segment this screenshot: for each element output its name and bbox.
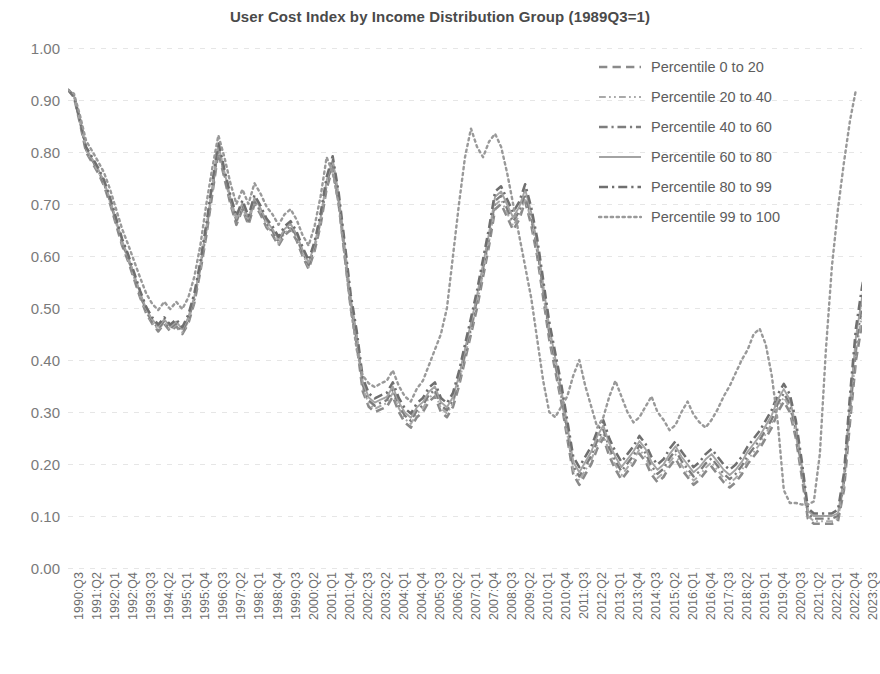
x-axis-tick-label: 1995:Q4 xyxy=(198,572,212,620)
x-axis-tick-label: 2008:Q3 xyxy=(505,572,519,620)
legend-item-label: Percentile 80 to 99 xyxy=(651,179,772,195)
x-axis-tick-label: 2015:Q2 xyxy=(668,572,682,620)
legend-line-sample-icon xyxy=(598,90,642,104)
x-axis-tick-label: 1991:Q2 xyxy=(90,572,104,620)
legend-line-sample-icon xyxy=(598,120,642,134)
legend-line-sample-icon xyxy=(598,60,642,74)
x-axis-tick-label: 2017:Q3 xyxy=(722,572,736,620)
y-axis-tick-label: 0.90 xyxy=(14,92,60,109)
legend-item-label: Percentile 99 to 100 xyxy=(651,209,780,225)
y-axis-tick-label: 0.80 xyxy=(14,144,60,161)
x-axis-tick-label: 2018:Q2 xyxy=(740,572,754,620)
x-axis-tick-label: 1992:Q4 xyxy=(126,572,140,620)
x-axis-tick-label: 2014:Q3 xyxy=(649,572,663,620)
legend-item-label: Percentile 0 to 20 xyxy=(651,59,764,75)
x-axis-tick-label: 1993:Q3 xyxy=(144,572,158,620)
y-axis-tick-label: 0.10 xyxy=(14,508,60,525)
x-axis-tick-label: 2020:Q3 xyxy=(794,572,808,620)
y-axis-tick-label: 0.20 xyxy=(14,456,60,473)
y-axis-tick-label: 0.70 xyxy=(14,196,60,213)
x-axis-tick-label: 2022:Q4 xyxy=(848,572,862,620)
x-axis-tick-label: 2016:Q1 xyxy=(686,572,700,620)
x-axis-tick-label: 2007:Q1 xyxy=(469,572,483,620)
x-axis-tick-label: 1998:Q1 xyxy=(252,572,266,620)
x-axis-tick-label: 2016:Q4 xyxy=(704,572,718,620)
x-axis-tick-label: 2013:Q1 xyxy=(613,572,627,620)
x-axis-tick-label: 2022:Q1 xyxy=(830,572,844,620)
x-axis-tick-label: 2013:Q4 xyxy=(631,572,645,620)
legend-item[interactable]: Percentile 80 to 99 xyxy=(598,172,870,202)
x-axis-tick-label: 2023:Q3 xyxy=(866,572,880,620)
legend-line-sample-icon xyxy=(598,210,642,224)
x-axis-tick-label: 1995:Q1 xyxy=(180,572,194,620)
legend-item[interactable]: Percentile 20 to 40 xyxy=(598,82,870,112)
legend-line-sample-icon xyxy=(598,180,642,194)
legend-item[interactable]: Percentile 99 to 100 xyxy=(598,202,870,232)
legend-item-label: Percentile 20 to 40 xyxy=(651,89,772,105)
legend-item-label: Percentile 60 to 80 xyxy=(651,149,772,165)
x-axis-tick-labels: 1990:Q31991:Q21992:Q11992:Q41993:Q31994:… xyxy=(68,572,862,672)
x-axis-tick-label: 2001:Q4 xyxy=(343,572,357,620)
x-axis-tick-label: 1996:Q3 xyxy=(216,572,230,620)
y-axis-tick-label: 1.00 xyxy=(14,40,60,57)
x-axis-tick-label: 2010:Q4 xyxy=(559,572,573,620)
x-axis-tick-label: 2003:Q2 xyxy=(379,572,393,620)
x-axis-tick-label: 2002:Q3 xyxy=(361,572,375,620)
legend-item[interactable]: Percentile 0 to 20 xyxy=(598,52,870,82)
x-axis-tick-label: 1997:Q2 xyxy=(234,572,248,620)
legend-item-label: Percentile 40 to 60 xyxy=(651,119,772,135)
x-axis-tick-label: 2019:Q4 xyxy=(776,572,790,620)
x-axis-tick-label: 1990:Q3 xyxy=(72,572,86,620)
legend-item[interactable]: Percentile 60 to 80 xyxy=(598,142,870,172)
x-axis-tick-label: 1992:Q1 xyxy=(108,572,122,620)
legend-item[interactable]: Percentile 40 to 60 xyxy=(598,112,870,142)
x-axis-tick-label: 1999:Q3 xyxy=(289,572,303,620)
x-axis-tick-label: 2000:Q2 xyxy=(307,572,321,620)
x-axis-tick-label: 1994:Q2 xyxy=(162,572,176,620)
y-axis-tick-label: 0.60 xyxy=(14,248,60,265)
x-axis-tick-label: 2009:Q2 xyxy=(523,572,537,620)
x-axis-tick-label: 2001:Q1 xyxy=(325,572,339,620)
x-axis-tick-label: 2004:Q4 xyxy=(415,572,429,620)
x-axis-tick-label: 1998:Q4 xyxy=(271,572,285,620)
x-axis-tick-label: 2019:Q1 xyxy=(758,572,772,620)
y-axis-tick-label: 0.00 xyxy=(14,560,60,577)
x-axis-tick-label: 2021:Q2 xyxy=(812,572,826,620)
x-axis-tick-label: 2010:Q1 xyxy=(541,572,555,620)
chart-container: User Cost Index by Income Distribution G… xyxy=(0,0,880,674)
x-axis-tick-label: 2011:Q3 xyxy=(577,572,591,619)
x-axis-tick-label: 2007:Q4 xyxy=(487,572,501,620)
x-axis-tick-label: 2005:Q3 xyxy=(433,572,447,620)
y-axis-tick-label: 0.40 xyxy=(14,352,60,369)
chart-legend: Percentile 0 to 20Percentile 20 to 40Per… xyxy=(598,52,870,232)
x-axis-tick-label: 2012:Q2 xyxy=(595,572,609,620)
y-axis-tick-labels: 0.000.100.200.300.400.500.600.700.800.90… xyxy=(14,48,60,568)
y-axis-tick-label: 0.50 xyxy=(14,300,60,317)
chart-title: User Cost Index by Income Distribution G… xyxy=(0,8,880,25)
x-axis-tick-label: 2006:Q2 xyxy=(451,572,465,620)
legend-line-sample-icon xyxy=(598,150,642,164)
gridline xyxy=(68,568,862,569)
x-axis-tick-label: 2004:Q1 xyxy=(397,572,411,620)
y-axis-tick-label: 0.30 xyxy=(14,404,60,421)
